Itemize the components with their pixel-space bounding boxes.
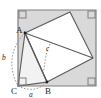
vertex-label-A: A	[16, 26, 23, 35]
side-label-b: b	[2, 54, 6, 62]
side-label-a: a	[29, 91, 33, 98]
vertex-label-B: B	[45, 87, 51, 96]
side-label-c: c	[46, 45, 49, 53]
geometry-figure: A B C a b c	[0, 0, 101, 98]
vertex-dot-A	[24, 32, 27, 35]
vertex-label-C: C	[11, 87, 17, 96]
geometry-canvas	[0, 0, 101, 98]
vertex-dot-B	[46, 81, 49, 84]
